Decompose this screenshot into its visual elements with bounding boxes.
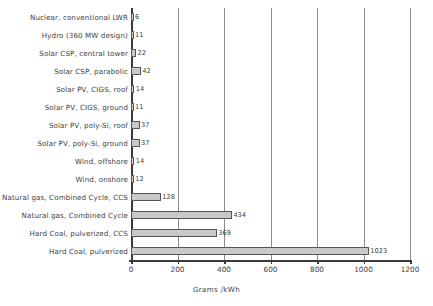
- category-label: Natural gas, Combined Cycle, CCS: [2, 193, 128, 202]
- bar-chart: Nuclear, conventional LWR6Hydro (360 MW …: [0, 0, 433, 306]
- x-tick-800: [317, 260, 319, 264]
- plot-area: Nuclear, conventional LWR6Hydro (360 MW …: [131, 8, 410, 260]
- bar-value-label: 42: [141, 67, 151, 75]
- category-label: Solar PV, poly-Si, roof: [49, 121, 128, 130]
- category-label: Nuclear, conventional LWR: [30, 13, 128, 22]
- bar: [131, 67, 141, 75]
- bar-row: Wind, onshore12: [131, 170, 410, 188]
- bar-value-label: 22: [136, 49, 146, 57]
- bar-value-label: 369: [217, 229, 231, 237]
- category-label: Wind, offshore: [75, 157, 128, 166]
- bar-value-label: 37: [140, 121, 150, 129]
- bar-row: Solar PV, poly-Si, ground37: [131, 134, 410, 152]
- bar: [131, 229, 217, 237]
- bar: [131, 193, 161, 201]
- gridline-1200: [410, 8, 411, 260]
- category-label: Hydro (360 MW design): [42, 31, 128, 40]
- category-label: Wind, onshore: [76, 175, 128, 184]
- bar: [131, 211, 232, 219]
- category-label: Natural gas, Combined Cycle: [22, 211, 128, 220]
- bar-row: Hard Coal, pulverized, CCS369: [131, 224, 410, 242]
- category-label: Hard Coal, pulverized: [49, 247, 128, 256]
- x-tick-label-400: 400: [217, 265, 231, 274]
- bar-row: Natural gas, Combined Cycle434: [131, 206, 410, 224]
- bar-row: Wind, offshore14: [131, 152, 410, 170]
- bar-value-label: 128: [161, 193, 175, 201]
- x-tick-1200: [410, 260, 412, 264]
- bar-value-label: 11: [134, 31, 144, 39]
- bar-row: Solar PV, CIGS, ground11: [131, 98, 410, 116]
- x-axis-title: Grams /kWh: [0, 285, 433, 294]
- category-label: Solar PV, poly-Si, ground: [37, 139, 128, 148]
- bar: [131, 139, 140, 147]
- x-tick-label-0: 0: [129, 265, 134, 274]
- x-tick-label-1000: 1000: [354, 265, 373, 274]
- category-label: Solar CSP, parabolic: [54, 67, 128, 76]
- bar-row: Solar PV, CIGS, roof14: [131, 80, 410, 98]
- bar-value-label: 1023: [369, 247, 387, 255]
- x-tick-200: [178, 260, 180, 264]
- bar-row: Solar CSP, central tower22: [131, 44, 410, 62]
- bar-value-label: 14: [134, 85, 144, 93]
- category-label: Solar CSP, central tower: [39, 49, 128, 58]
- x-tick-label-200: 200: [171, 265, 185, 274]
- bar-value-label: 12: [134, 175, 144, 183]
- category-label: Solar PV, CIGS, ground: [45, 103, 128, 112]
- bar-value-label: 37: [140, 139, 150, 147]
- bar: [131, 247, 369, 255]
- x-tick-label-600: 600: [264, 265, 278, 274]
- x-tick-0: [131, 260, 133, 264]
- bar-row: Hydro (360 MW design)11: [131, 26, 410, 44]
- x-tick-400: [224, 260, 226, 264]
- bar-row: Natural gas, Combined Cycle, CCS128: [131, 188, 410, 206]
- bar-row: Nuclear, conventional LWR6: [131, 8, 410, 26]
- bar-value-label: 6: [134, 13, 140, 21]
- bar: [131, 121, 140, 129]
- category-label: Hard Coal, pulverized, CCS: [30, 229, 128, 238]
- bar-value-label: 434: [232, 211, 246, 219]
- x-tick-1000: [364, 260, 366, 264]
- x-tick-600: [271, 260, 273, 264]
- bar-row: Hard Coal, pulverized1023: [131, 242, 410, 260]
- bar-value-label: 11: [134, 103, 144, 111]
- bar-row: Solar PV, poly-Si, roof37: [131, 116, 410, 134]
- category-label: Solar PV, CIGS, roof: [56, 85, 128, 94]
- x-tick-label-1200: 1200: [401, 265, 420, 274]
- bar-value-label: 14: [134, 157, 144, 165]
- bar-row: Solar CSP, parabolic42: [131, 62, 410, 80]
- x-tick-label-800: 800: [310, 265, 324, 274]
